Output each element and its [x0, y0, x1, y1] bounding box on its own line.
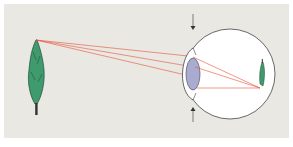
eye-optics-diagram	[0, 0, 293, 147]
lens	[186, 58, 200, 90]
